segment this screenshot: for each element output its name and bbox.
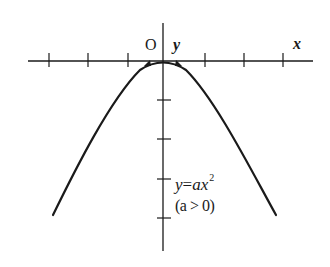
origin-label: O (145, 37, 157, 53)
graph-canvas (0, 0, 330, 267)
y-axis-ticks (157, 100, 171, 218)
y-axis-label: y (173, 37, 180, 53)
equation-exponent: 2 (209, 172, 214, 183)
equation-label: y=ax2 (175, 176, 214, 193)
x-axis-label: x (293, 36, 301, 52)
condition-label: (a > 0) (175, 198, 214, 214)
equation-eq: = (183, 175, 193, 194)
equation-rhs: ax (192, 175, 208, 194)
equation-lhs: y (175, 175, 183, 194)
x-axis-ticks (49, 53, 283, 67)
